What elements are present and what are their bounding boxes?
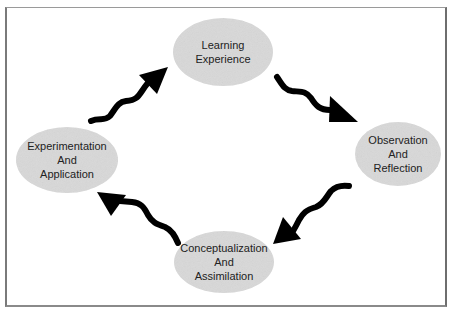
- label-line: Observation: [368, 133, 427, 147]
- label-observation-and-reflection: Observation And Reflection: [368, 133, 427, 175]
- wavy-arrow-icon: [277, 77, 358, 122]
- label-line: Reflection: [368, 161, 427, 175]
- label-conceptualization-and-assimilation: Conceptualization And Assimilation: [180, 241, 267, 283]
- label-line: Conceptualization: [180, 241, 267, 255]
- label-line: Learning: [195, 38, 250, 52]
- label-line: Experimentation: [27, 139, 107, 153]
- label-line: Experience: [195, 52, 250, 66]
- label-line: Application: [27, 167, 107, 181]
- label-experimentation-and-application: Experimentation And Application: [27, 139, 107, 181]
- label-learning-experience: Learning Experience: [195, 38, 250, 66]
- label-line: And: [180, 255, 267, 269]
- label-line: And: [27, 153, 107, 167]
- label-line: And: [368, 147, 427, 161]
- label-line: Assimilation: [180, 269, 267, 283]
- wavy-arrow-icon: [273, 186, 349, 244]
- wavy-arrow-icon: [97, 192, 178, 243]
- wavy-arrow-icon: [91, 67, 168, 121]
